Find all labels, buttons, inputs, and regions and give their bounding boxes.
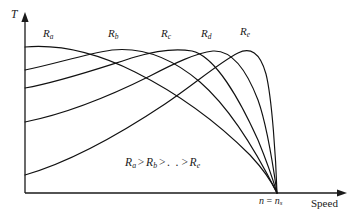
- curve-label-rd-subscript: d: [208, 32, 212, 41]
- curve-label-rb: Rb: [108, 28, 118, 40]
- figure-canvas: [0, 0, 363, 221]
- relation-sub-1: a: [132, 161, 136, 170]
- curve-label-re-base: R: [240, 25, 247, 37]
- curve-rb: [25, 50, 277, 193]
- relation-operator-2: >: [159, 156, 166, 168]
- curve-label-re: Re: [240, 26, 250, 38]
- curve-rc: [25, 50, 277, 193]
- x-axis-label: Speed: [311, 198, 338, 209]
- curve-label-ra-base: R: [43, 27, 50, 39]
- x-axis-arrow-icon: [337, 189, 347, 196]
- resistance-relation-note: Ra>Rb>. .>Re: [125, 157, 200, 170]
- curve-label-rc-subscript: c: [168, 32, 171, 41]
- curve-ra: [25, 46, 277, 193]
- curve-label-rb-subscript: b: [115, 32, 119, 41]
- curve-label-ra: Ra: [43, 28, 53, 40]
- relation-sub-3: e: [197, 161, 201, 170]
- curve-label-rc-base: R: [161, 27, 168, 39]
- tick-equals: =: [264, 195, 275, 206]
- relation-sub-2: b: [153, 161, 157, 170]
- torque-speed-figure: T Speed n = ns Ra Rb Rc Rd Re Ra>Rb>. .>…: [0, 0, 363, 221]
- curve-label-rd-base: R: [201, 27, 208, 39]
- tick-ns-subscript: s: [280, 199, 283, 206]
- curve-label-rd: Rd: [201, 28, 211, 40]
- relation-ellipsis: . .: [167, 156, 180, 168]
- curves-group: [25, 46, 277, 193]
- curve-re: [25, 51, 277, 193]
- curve-rd: [25, 51, 277, 193]
- curve-label-rb-base: R: [108, 27, 115, 39]
- y-axis-label: T: [11, 9, 17, 21]
- relation-operator-3: >: [181, 156, 188, 168]
- y-axis-arrow-icon: [21, 12, 28, 22]
- relation-operator-1: >: [138, 156, 145, 168]
- curve-label-re-subscript: e: [247, 30, 250, 39]
- relation-term-3: R: [190, 156, 197, 168]
- synchronous-speed-tick-label: n = ns: [259, 196, 282, 207]
- curve-label-rc: Rc: [161, 28, 171, 40]
- curve-label-ra-subscript: a: [50, 32, 54, 41]
